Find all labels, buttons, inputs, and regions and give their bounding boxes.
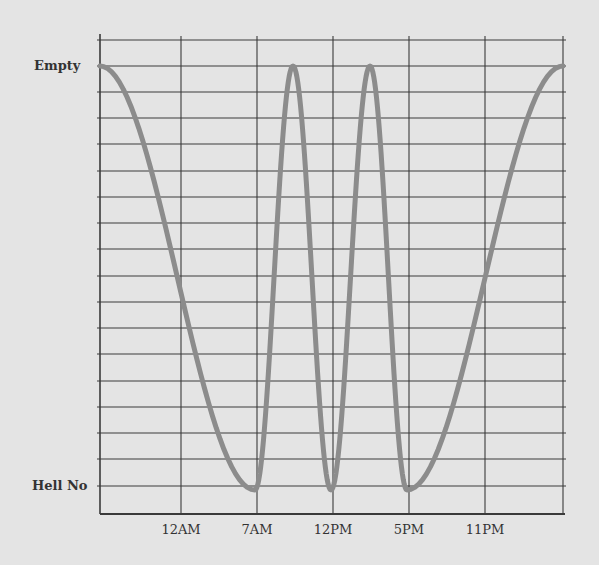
x-label-7am: 7AM bbox=[242, 522, 273, 537]
x-label-12pm: 12PM bbox=[314, 522, 353, 537]
y-label-empty: Empty bbox=[34, 58, 80, 73]
x-label-12am: 12AM bbox=[161, 522, 200, 537]
vertical-gridlines bbox=[181, 36, 563, 514]
chart-plot bbox=[0, 0, 599, 565]
y-label-hell-no: Hell No bbox=[32, 478, 88, 493]
horizontal-gridlines bbox=[97, 40, 566, 486]
x-label-5pm: 5PM bbox=[394, 522, 424, 537]
data-series-line bbox=[100, 66, 563, 490]
x-label-11pm: 11PM bbox=[466, 522, 505, 537]
